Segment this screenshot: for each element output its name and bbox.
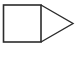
square-with-triangle-diagram <box>0 0 77 59</box>
triangle-shape <box>41 5 73 42</box>
square-shape <box>4 5 42 42</box>
